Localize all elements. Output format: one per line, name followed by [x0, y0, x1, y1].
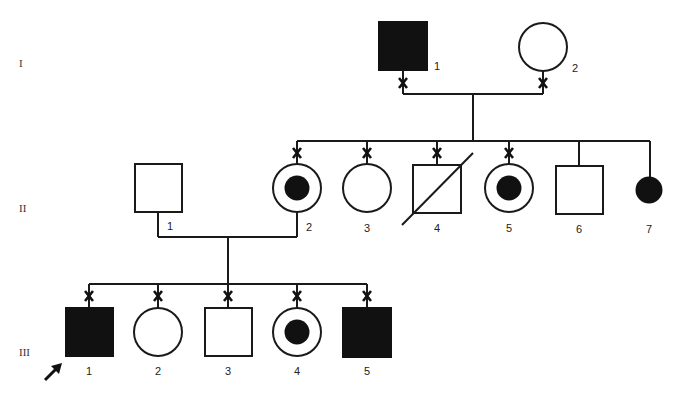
unaffected-male-symbol	[556, 166, 603, 214]
individual-III-3: 3	[205, 308, 252, 377]
affected-male-symbol	[379, 22, 427, 70]
individual-number: 2	[155, 365, 161, 377]
pedigree-diagram: I II III 1 2	[0, 0, 680, 398]
individual-II-7: 7	[637, 178, 662, 236]
unaffected-male-symbol	[135, 164, 182, 212]
unaffected-male-symbol	[205, 308, 252, 356]
individual-III-4: 4	[273, 308, 321, 377]
generation-label-I: I	[19, 57, 23, 69]
individual-number: 5	[506, 222, 512, 234]
individual-I-2: 2	[519, 23, 578, 74]
individual-II-3: 3	[343, 164, 391, 234]
individual-number: 7	[646, 223, 652, 235]
individual-number: 4	[434, 222, 440, 234]
individual-number: 5	[364, 365, 370, 377]
unaffected-female-symbol	[519, 23, 567, 71]
individual-number: 1	[167, 220, 173, 232]
generation-label-II: II	[19, 202, 27, 214]
individual-number: 3	[364, 222, 370, 234]
individual-III-5: 5	[343, 308, 391, 377]
unaffected-female-symbol	[134, 308, 182, 356]
affected-male-symbol	[343, 308, 391, 357]
individual-number: 3	[225, 365, 231, 377]
individual-III-2: 2	[134, 308, 182, 377]
individual-number: 4	[294, 365, 300, 377]
individual-number: 2	[572, 62, 578, 74]
individual-number: 1	[434, 60, 440, 72]
affected-male-symbol	[66, 308, 113, 356]
individual-I-1: 1	[379, 22, 440, 72]
individual-number: 1	[86, 365, 92, 377]
carrier-dot	[497, 176, 522, 201]
individual-II-4: 4	[402, 153, 473, 234]
proband-arrow-icon	[45, 363, 62, 380]
individual-number: 2	[306, 221, 312, 233]
affected-female-symbol	[637, 178, 662, 203]
unaffected-female-symbol	[343, 164, 391, 212]
individual-III-1: 1	[66, 308, 113, 377]
carrier-dot	[285, 320, 310, 345]
individual-II-5: 5	[485, 164, 533, 234]
individual-II-6: 6	[556, 166, 603, 235]
generation-label-III: III	[19, 346, 30, 358]
carrier-dot	[285, 176, 310, 201]
individual-number: 6	[576, 223, 582, 235]
